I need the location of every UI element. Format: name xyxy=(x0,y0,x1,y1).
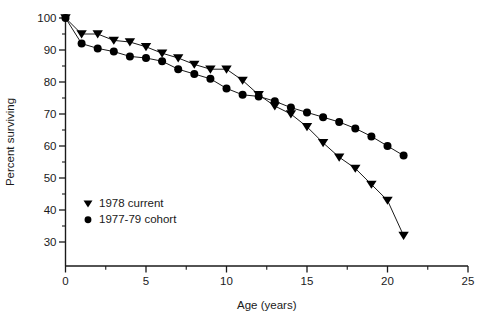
survival-curve-chart: 30405060708090100 0510152025 Percent sur… xyxy=(0,0,489,315)
data-point-circle xyxy=(223,84,231,92)
data-point-circle xyxy=(384,142,392,150)
data-point-circle xyxy=(351,124,359,132)
y-tick-label: 90 xyxy=(44,44,57,56)
y-axis-title: Percent surviving xyxy=(4,98,16,186)
data-point-circle xyxy=(367,132,375,140)
chart-legend: 1978 current1977-79 cohort xyxy=(84,197,178,225)
data-point-circle xyxy=(239,91,247,99)
data-point-triangle-down xyxy=(141,43,151,51)
x-tick-label: 10 xyxy=(220,275,233,287)
legend-marker-triangle-down xyxy=(84,201,93,208)
legend-marker-circle xyxy=(85,216,92,223)
data-point-triangle-down xyxy=(173,54,183,62)
x-tick-label: 15 xyxy=(301,275,314,287)
data-point-circle xyxy=(303,108,311,116)
y-tick-label: 70 xyxy=(44,108,57,120)
data-point-circle xyxy=(126,52,134,60)
data-point-circle xyxy=(400,152,408,160)
data-point-circle xyxy=(206,75,214,83)
data-point-circle xyxy=(110,48,118,56)
data-point-circle xyxy=(319,113,327,121)
data-point-circle xyxy=(62,14,70,22)
x-tick-label: 25 xyxy=(462,275,475,287)
data-point-circle xyxy=(78,40,86,48)
y-tick-label: 40 xyxy=(44,204,57,216)
chart-canvas: 30405060708090100 0510152025 Percent sur… xyxy=(0,0,489,315)
data-point-circle xyxy=(94,44,102,52)
y-tick-label: 50 xyxy=(44,172,57,184)
y-tick-label: 30 xyxy=(44,236,57,248)
data-point-triangle-down xyxy=(157,49,167,57)
x-tick-label: 20 xyxy=(381,275,394,287)
legend-label: 1978 current xyxy=(99,197,164,209)
y-axis-tick-labels: 30405060708090100 xyxy=(37,12,56,248)
data-point-triangle-down xyxy=(382,197,392,205)
data-point-triangle-down xyxy=(334,153,344,161)
data-point-circle xyxy=(287,104,295,112)
data-point-triangle-down xyxy=(189,61,199,69)
y-tick-label: 80 xyxy=(44,76,57,88)
data-point-circle xyxy=(335,118,343,126)
data-point-triangle-down xyxy=(125,38,135,46)
x-axis-tick-labels: 0510152025 xyxy=(62,275,474,287)
data-point-circle xyxy=(255,92,263,100)
x-axis-title: Age (years) xyxy=(237,299,297,311)
data-point-circle xyxy=(142,54,150,62)
x-tick-label: 5 xyxy=(143,275,149,287)
data-point-triangle-down xyxy=(398,232,408,240)
x-tick-label: 0 xyxy=(62,275,68,287)
y-tick-label: 60 xyxy=(44,140,57,152)
data-point-circle xyxy=(190,70,198,78)
legend-label: 1977-79 cohort xyxy=(99,213,177,225)
series-cohort xyxy=(62,14,408,160)
data-point-circle xyxy=(271,97,279,105)
data-point-circle xyxy=(158,57,166,65)
data-point-circle xyxy=(174,65,182,73)
y-tick-label: 100 xyxy=(37,12,56,24)
